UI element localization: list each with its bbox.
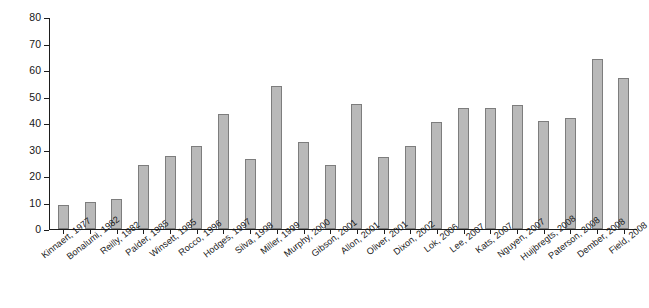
bar-slot [77,18,104,229]
bar [58,205,69,229]
bar [298,142,309,229]
x-axis-labels: Kinnaert, 1977Bonalumi, 1982Reilly, 1982… [50,232,638,308]
bar-slot [530,18,557,229]
x-label-slot: Palder, 1985 [130,232,157,308]
y-tick-label: 50 [29,91,41,104]
bar [165,156,176,229]
x-label-slot: Field, 2008 [611,232,638,308]
y-tick: 30 [44,151,49,152]
bar-slot [237,18,264,229]
y-tick-label: 0 [35,223,41,236]
bar-slot [477,18,504,229]
x-label-slot: Silva, 1998 [237,232,264,308]
bar-slot [424,18,451,229]
bar [485,108,496,229]
x-label-slot: Miller, 1999 [264,232,291,308]
x-label-slot: Winsett, 1985 [157,232,184,308]
bar-series [50,18,637,229]
plot-area: 80706050403020100 [49,18,637,230]
y-tick-label: 70 [29,38,41,51]
bar [378,157,389,229]
y-tick: 10 [44,204,49,205]
bar-slot [103,18,130,229]
bar [458,108,469,229]
bar-slot [317,18,344,229]
bar-slot [370,18,397,229]
x-label-slot: Oliver, 2001 [371,232,398,308]
bar-slot [264,18,291,229]
y-tick-label: 40 [29,117,41,130]
bar [592,59,603,229]
bar-slot [397,18,424,229]
bar-slot [290,18,317,229]
x-label-slot: Allon, 2001 [344,232,371,308]
x-label-slot: Lok, 2006 [424,232,451,308]
y-tick-label: 30 [29,144,41,157]
y-tick: 70 [44,45,49,46]
y-tick: 50 [44,98,49,99]
y-tick-label: 20 [29,170,41,183]
bar [218,114,229,229]
y-tick-label: 60 [29,64,41,77]
bar-slot [610,18,637,229]
x-label-slot: Nguyen, 2007 [504,232,531,308]
bar [138,165,149,229]
x-label-slot: Kinnaert, 1977 [50,232,77,308]
x-label-slot: Hodges, 1997 [210,232,237,308]
x-label-slot: Murphy, 2000 [291,232,318,308]
x-label-slot: Lee, 2007 [451,232,478,308]
y-tick: 20 [44,177,49,178]
bar [351,104,362,229]
x-label-slot: Dixon, 2002 [398,232,425,308]
bar [271,86,282,229]
bar-slot [344,18,371,229]
y-tick: 40 [44,124,49,125]
bar-slot [157,18,184,229]
x-label-slot: Reilly, 1982 [103,232,130,308]
x-label-slot: Huijbregts, 2008 [531,232,558,308]
bar [512,105,523,229]
y-tick-label: 80 [29,11,41,24]
bar [431,122,442,229]
x-label-slot: Rocco, 1996 [184,232,211,308]
bar-slot [183,18,210,229]
y-tick: 80 [44,18,49,19]
bar-slot [557,18,584,229]
x-label-slot: Gibson, 2001 [317,232,344,308]
bar-slot [584,18,611,229]
bar-slot [504,18,531,229]
x-label-slot: Paterson, 2008 [558,232,585,308]
y-tick: 0 [44,230,49,231]
bar [191,146,202,229]
bar [405,146,416,229]
bar-slot [50,18,77,229]
x-label-slot: Dember, 2008 [585,232,612,308]
bar [618,78,629,229]
x-label-slot: Kats, 2007 [478,232,505,308]
bar-slot [210,18,237,229]
y-tick-label: 10 [29,197,41,210]
x-label-slot: Bonalumi, 1982 [77,232,104,308]
y-tick: 60 [44,71,49,72]
bar [538,121,549,229]
bar-slot [130,18,157,229]
bar-slot [450,18,477,229]
